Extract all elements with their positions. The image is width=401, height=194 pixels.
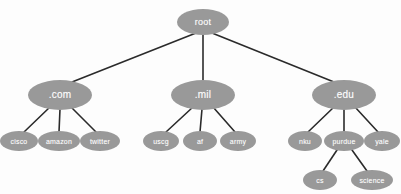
- tree-node-label: science: [359, 177, 384, 184]
- tree-node-cisco[interactable]: cisco: [0, 131, 38, 151]
- tree-node-cs[interactable]: cs: [303, 170, 337, 190]
- tree-edge-purdue-to-science: [352, 150, 367, 171]
- tree-edge-mil-to-uscg: [166, 107, 193, 132]
- dns-hierarchy-diagram: root.com.mil.educiscoamazontwitteruscgaf…: [0, 0, 401, 194]
- tree-node-af[interactable]: af: [183, 131, 217, 151]
- tree-node-label: nku: [299, 138, 311, 145]
- tree-node-edu[interactable]: .edu: [312, 80, 376, 110]
- tree-node-label: amazon: [46, 138, 72, 145]
- tree-node-label: .edu: [334, 90, 354, 100]
- tree-node-label: uscg: [153, 138, 169, 145]
- tree-node-purdue[interactable]: purdue: [324, 131, 364, 151]
- tree-node-mil[interactable]: .mil: [171, 80, 235, 110]
- tree-node-label: cisco: [11, 138, 28, 145]
- tree-edge-edu-to-nku: [308, 107, 334, 132]
- tree-node-root[interactable]: root: [177, 9, 229, 35]
- tree-node-twitter[interactable]: twitter: [80, 131, 120, 151]
- tree-node-label: root: [195, 18, 211, 27]
- tree-edge-mil-to-af: [200, 109, 202, 132]
- tree-node-nku[interactable]: nku: [288, 131, 322, 151]
- tree-node-uscg[interactable]: uscg: [143, 131, 179, 151]
- tree-node-com[interactable]: .com: [28, 80, 92, 110]
- tree-edge-com-to-cisco: [24, 107, 50, 132]
- tree-node-label: .mil: [195, 90, 211, 100]
- tree-node-label: twitter: [90, 138, 110, 145]
- tree-node-science[interactable]: science: [351, 170, 393, 190]
- tree-node-label: army: [230, 138, 246, 145]
- tree-node-label: cs: [316, 177, 323, 184]
- tree-node-amazon[interactable]: amazon: [38, 131, 80, 151]
- tree-edge-com-to-twitter: [71, 107, 96, 132]
- tree-edge-com-to-amazon: [59, 109, 60, 132]
- tree-edge-root-to-edu: [212, 33, 334, 82]
- tree-edge-root-to-com: [72, 33, 196, 82]
- tree-edge-purdue-to-cs: [323, 150, 337, 171]
- tree-node-yale[interactable]: yale: [364, 131, 400, 151]
- tree-node-label: yale: [375, 138, 389, 145]
- tree-edge-edu-to-yale: [355, 107, 378, 132]
- tree-node-label: af: [197, 138, 203, 145]
- tree-node-label: purdue: [333, 138, 356, 145]
- tree-node-label: .com: [49, 90, 71, 100]
- tree-edge-mil-to-army: [213, 107, 235, 132]
- tree-node-army[interactable]: army: [220, 131, 256, 151]
